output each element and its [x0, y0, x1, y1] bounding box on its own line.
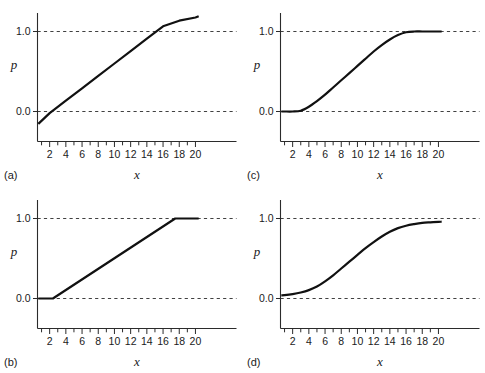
x-ticklabel-8: 8: [338, 148, 344, 160]
y-ticklabel-0.0: 0.0: [259, 292, 274, 304]
x-ticklabel-6: 6: [79, 148, 85, 160]
chart-panel-a: 0.01.02468101214161820px(a): [0, 0, 242, 186]
x-ticklabel-4: 4: [63, 335, 69, 347]
x-ticklabel-16: 16: [400, 335, 412, 347]
data-curve-d: [281, 222, 441, 296]
panel-letter-b: (b): [4, 356, 17, 368]
y-ticklabel-0.0: 0.0: [16, 292, 31, 304]
x-axis-ticks-b: 2468101214161820: [42, 329, 202, 348]
y-axis-ticks-d: 0.01.0: [259, 212, 281, 304]
x-ticklabel-2: 2: [47, 148, 53, 160]
x-ticklabel-12: 12: [368, 148, 380, 160]
four-panel-probability-figure: 0.01.02468101214161820px(a)0.01.02468101…: [0, 0, 485, 373]
x-axis-label-b: x: [133, 354, 140, 369]
panel-letter-d: (d): [247, 356, 260, 368]
y-axis-label-d: p: [253, 244, 261, 259]
x-ticklabel-10: 10: [109, 148, 121, 160]
x-ticklabel-18: 18: [416, 335, 428, 347]
panel-letter-c: (c): [247, 169, 260, 181]
x-ticklabel-6: 6: [322, 335, 328, 347]
x-axis-ticks-a: 2468101214161820: [42, 142, 202, 161]
y-axis-ticks-b: 0.01.0: [16, 212, 38, 304]
x-ticklabel-8: 8: [338, 335, 344, 347]
chart-panel-d: 0.01.02468101214161820px(d): [243, 187, 485, 373]
y-axis-ticks-c: 0.01.0: [259, 25, 281, 117]
data-curve-a: [38, 16, 198, 124]
x-ticklabel-20: 20: [190, 335, 202, 347]
x-ticklabel-4: 4: [306, 148, 312, 160]
x-ticklabel-2: 2: [290, 148, 296, 160]
y-axis-ticks-a: 0.01.0: [16, 25, 38, 117]
x-ticklabel-12: 12: [368, 335, 380, 347]
x-axis-ticks-d: 2468101214161820: [285, 329, 445, 348]
x-ticklabel-2: 2: [47, 335, 53, 347]
chart-svg-a: 0.01.02468101214161820px(a): [0, 0, 242, 186]
x-ticklabel-12: 12: [125, 335, 137, 347]
x-ticklabel-20: 20: [433, 335, 445, 347]
x-ticklabel-10: 10: [352, 335, 364, 347]
chart-panel-c: 0.01.02468101214161820px(c): [243, 0, 485, 186]
x-ticklabel-20: 20: [190, 148, 202, 160]
chart-panel-b: 0.01.02468101214161820px(b): [0, 187, 242, 373]
x-ticklabel-16: 16: [157, 335, 169, 347]
y-ticklabel-1.0: 1.0: [16, 212, 31, 224]
x-ticklabel-14: 14: [141, 148, 153, 160]
x-ticklabel-16: 16: [400, 148, 412, 160]
data-curve-b: [38, 219, 198, 299]
x-ticklabel-14: 14: [141, 335, 153, 347]
chart-svg-c: 0.01.02468101214161820px(c): [243, 0, 485, 186]
x-ticklabel-18: 18: [173, 148, 185, 160]
x-ticklabel-14: 14: [384, 335, 396, 347]
x-ticklabel-4: 4: [63, 148, 69, 160]
x-axis-label-d: x: [376, 354, 383, 369]
x-ticklabel-10: 10: [352, 148, 364, 160]
x-axis-label-c: x: [376, 167, 383, 182]
gridlines-d: [281, 219, 480, 299]
chart-svg-b: 0.01.02468101214161820px(b): [0, 187, 242, 373]
data-curve-c: [281, 31, 441, 111]
x-ticklabel-18: 18: [173, 335, 185, 347]
y-ticklabel-1.0: 1.0: [259, 212, 274, 224]
x-ticklabel-18: 18: [416, 148, 428, 160]
x-axis-ticks-c: 2468101214161820: [285, 142, 445, 161]
x-ticklabel-14: 14: [384, 148, 396, 160]
x-ticklabel-8: 8: [95, 335, 101, 347]
panel-letter-a: (a): [4, 169, 17, 181]
x-ticklabel-6: 6: [322, 148, 328, 160]
y-axis-label-a: p: [10, 57, 18, 72]
gridlines-c: [281, 32, 480, 112]
x-ticklabel-20: 20: [433, 148, 445, 160]
x-ticklabel-4: 4: [306, 335, 312, 347]
x-ticklabel-10: 10: [109, 335, 121, 347]
x-axis-label-a: x: [133, 167, 140, 182]
x-ticklabel-6: 6: [79, 335, 85, 347]
y-ticklabel-0.0: 0.0: [259, 105, 274, 117]
x-ticklabel-16: 16: [157, 148, 169, 160]
y-ticklabel-1.0: 1.0: [259, 25, 274, 37]
y-ticklabel-1.0: 1.0: [16, 25, 31, 37]
x-ticklabel-12: 12: [125, 148, 137, 160]
gridlines-b: [38, 219, 237, 299]
chart-svg-d: 0.01.02468101214161820px(d): [243, 187, 485, 373]
y-axis-label-b: p: [10, 244, 18, 259]
y-ticklabel-0.0: 0.0: [16, 105, 31, 117]
y-axis-label-c: p: [253, 57, 261, 72]
x-ticklabel-2: 2: [290, 335, 296, 347]
x-ticklabel-8: 8: [95, 148, 101, 160]
